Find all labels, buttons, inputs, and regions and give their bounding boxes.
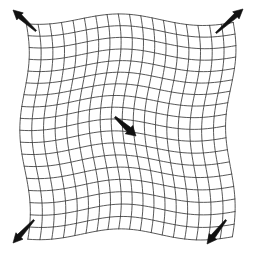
deformation-grid-canvas xyxy=(0,0,255,255)
warped-grid-figure xyxy=(0,0,255,255)
